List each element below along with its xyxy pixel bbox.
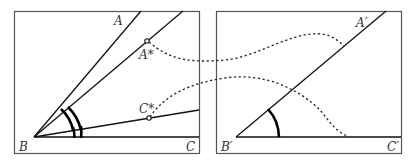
transfer-curve-C — [150, 77, 349, 137]
label-C-prime: C′ — [387, 140, 399, 154]
angle-arc-prime — [268, 109, 279, 137]
right-panel-frame — [217, 12, 402, 154]
right-panel: A′ B′ C′ — [217, 11, 402, 154]
ray-BA — [34, 11, 141, 137]
point-A-star — [145, 39, 149, 43]
label-B-prime: B′ — [220, 140, 233, 154]
label-A-star: A* — [138, 48, 154, 62]
label-C-star: C* — [139, 102, 154, 116]
label-C: C — [186, 140, 195, 154]
left-panel-frame — [15, 12, 200, 154]
left-panel: A A* C* B C — [15, 11, 200, 154]
label-A: A — [113, 14, 123, 28]
label-A-prime: A′ — [355, 16, 368, 30]
ray-BA-star — [34, 11, 183, 137]
transfer-curve-A — [149, 34, 344, 61]
label-B: B — [18, 140, 28, 154]
ray-BC-star — [34, 110, 199, 137]
angle-transfer-diagram: A A* C* B C A′ B′ C′ — [0, 0, 416, 167]
